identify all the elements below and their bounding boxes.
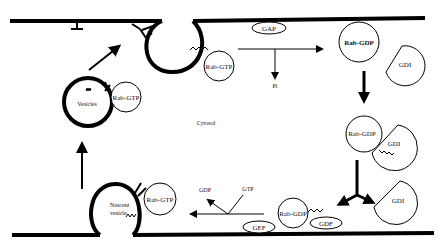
gdp-release-arrow (208, 200, 228, 214)
rab-gtp-nascent-node: Rab-GTP (144, 183, 176, 215)
gdf-label: GDF (319, 220, 333, 228)
gdi-top-label: GDI (399, 61, 412, 69)
gap-node: GAP (252, 22, 286, 34)
rab-gdp-top-node: Rab-GDP (339, 22, 379, 62)
nascent-vesicle-label-2: vesicle (110, 210, 127, 216)
rab-cycle-diagram: Rab-GTP GAP Pi Rab-GDP GDI Rab-GDP GDI G… (0, 0, 443, 251)
gdf-node: GDF (310, 217, 342, 229)
nascent-vesicle-label-1: Nascent (110, 202, 130, 208)
gdp-label: GDP (199, 187, 212, 193)
rab-gdp-top-label: Rab-GDP (344, 39, 374, 47)
dissociation-arrow (340, 160, 372, 204)
rab-gtp-vesicle-node: Rab-GTP (111, 82, 141, 112)
gtp-bind-line (228, 195, 243, 214)
docking-arrow (89, 47, 118, 70)
gtp-label: GTP (242, 186, 254, 192)
gdi-top-node: GDI (386, 46, 425, 86)
gap-label: GAP (262, 25, 276, 33)
cytosol-label: Cytosol (197, 120, 216, 126)
vesicle-node: Vesicles (64, 78, 112, 126)
pi-label: Pi (272, 83, 277, 89)
rab-gtp-top-label: Rab-GTP (206, 63, 233, 71)
gef-node: GEF (243, 221, 275, 233)
bottom-membrane (12, 183, 434, 235)
rab-gtp-vesicle-label: Rab-GTP (113, 94, 140, 102)
rab-gdp-complex-label: Rab-GDP (348, 130, 376, 138)
rab-gtp-nascent-label: Rab-GTP (147, 196, 174, 204)
lipid-anchor-icon (190, 47, 208, 50)
gdi-free-label: GDI (392, 197, 405, 205)
gdi-free-node: GDI (374, 181, 418, 225)
rab-gtp-top-node: Rab-GTP (204, 51, 234, 81)
vesicles-label: Vesicles (77, 101, 97, 107)
gdi-complex-label: GDI (388, 140, 401, 148)
rab-gdp-membrane-label: Rab-GDP (279, 210, 307, 218)
gef-label: GEF (252, 224, 265, 232)
